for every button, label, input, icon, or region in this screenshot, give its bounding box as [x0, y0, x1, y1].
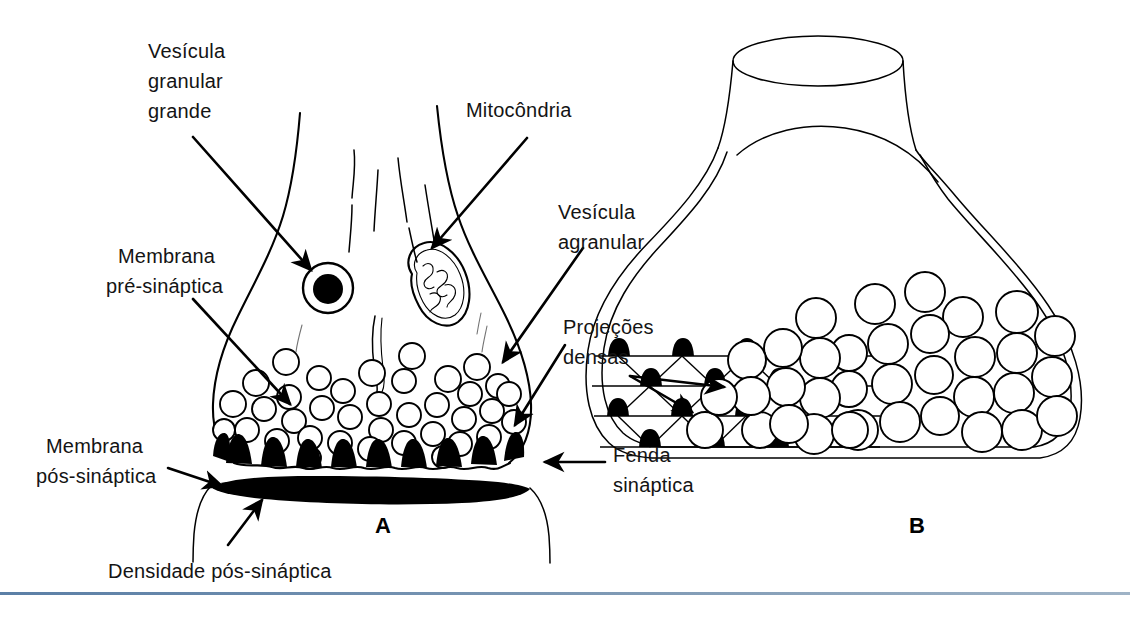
agranular-vesicle	[425, 393, 449, 417]
agranular-vesicle	[252, 397, 276, 421]
agranular-vesicle	[367, 392, 391, 416]
agranular-vesicle	[868, 324, 908, 364]
agranular-vesicle	[359, 360, 385, 386]
agranular-vesicle	[996, 291, 1038, 333]
agranular-vesicle	[872, 364, 912, 404]
agranular-vesicle	[855, 284, 895, 324]
agranular-vesicle	[770, 405, 808, 443]
agranular-vesicle	[955, 337, 995, 377]
agranular-vesicle	[832, 412, 868, 448]
agranular-vesicle	[435, 366, 461, 392]
panel-label-b: B	[909, 513, 925, 538]
agranular-vesicle	[997, 333, 1037, 373]
agranular-vesicle	[452, 407, 476, 431]
agranular-vesicle	[880, 402, 920, 442]
panel-label-a: A	[375, 513, 391, 538]
agranular-vesicle	[764, 329, 802, 367]
agranular-vesicle	[911, 315, 949, 353]
agranular-vesicle	[800, 338, 840, 378]
agranular-vesicle	[397, 403, 421, 427]
agranular-vesicle	[1035, 316, 1075, 356]
agranular-vesicle	[331, 379, 355, 403]
label-line: Densidade pós-sináptica	[108, 560, 332, 582]
agranular-vesicle	[1037, 396, 1077, 436]
label-densidade-pos-sinaptica: Densidade pós-sináptica	[108, 560, 332, 582]
agranular-vesicle	[497, 382, 521, 406]
label-line: sináptica	[613, 474, 694, 496]
agranular-vesicle	[767, 368, 805, 406]
agranular-vesicle	[399, 343, 425, 369]
agranular-vesicle	[728, 341, 766, 379]
agranular-vesicle	[392, 369, 416, 393]
label-line: Vesícula	[148, 40, 226, 62]
label-line: Vesícula	[558, 201, 636, 223]
label-line: Fenda	[613, 444, 671, 466]
label-line: Membrana	[118, 245, 216, 267]
agranular-vesicle	[687, 412, 723, 448]
agranular-vesicle	[307, 366, 331, 390]
agranular-vesicle	[905, 272, 945, 312]
agranular-vesicle	[421, 422, 445, 446]
label-mitocondria: Mitocôndria	[466, 99, 572, 121]
label-line: Membrana	[46, 435, 144, 457]
agranular-vesicle	[921, 397, 959, 435]
agranular-vesicle	[962, 412, 1002, 452]
agranular-vesicle	[220, 391, 246, 417]
figure-stage: A	[0, 0, 1130, 621]
agranular-vesicle	[994, 373, 1034, 413]
agranular-vesicle	[243, 370, 269, 396]
label-line: pré-sináptica	[106, 275, 224, 297]
label-line: densas	[563, 346, 629, 368]
label-line: pós-sináptica	[36, 465, 157, 487]
agranular-vesicle	[277, 385, 301, 409]
agranular-vesicle	[1032, 357, 1072, 397]
label-line: grande	[148, 100, 211, 122]
agranular-vesicle	[310, 396, 334, 420]
agranular-vesicle	[954, 377, 994, 417]
agranular-vesicle	[1002, 410, 1042, 450]
label-line: Mitocôndria	[466, 99, 572, 121]
agranular-vesicle	[915, 356, 953, 394]
agranular-vesicle	[800, 378, 840, 418]
label-line: Projeções	[563, 316, 654, 338]
bottom-divider-rule	[0, 592, 1130, 595]
label-line: granular	[148, 70, 223, 92]
agranular-vesicle	[338, 405, 362, 429]
agranular-vesicle	[464, 354, 490, 380]
synapse-diagram: A	[0, 0, 1130, 621]
agranular-vesicle	[796, 298, 836, 338]
label-line: agranular	[558, 231, 644, 253]
agranular-vesicle	[273, 349, 299, 375]
agranular-vesicle	[458, 382, 482, 406]
